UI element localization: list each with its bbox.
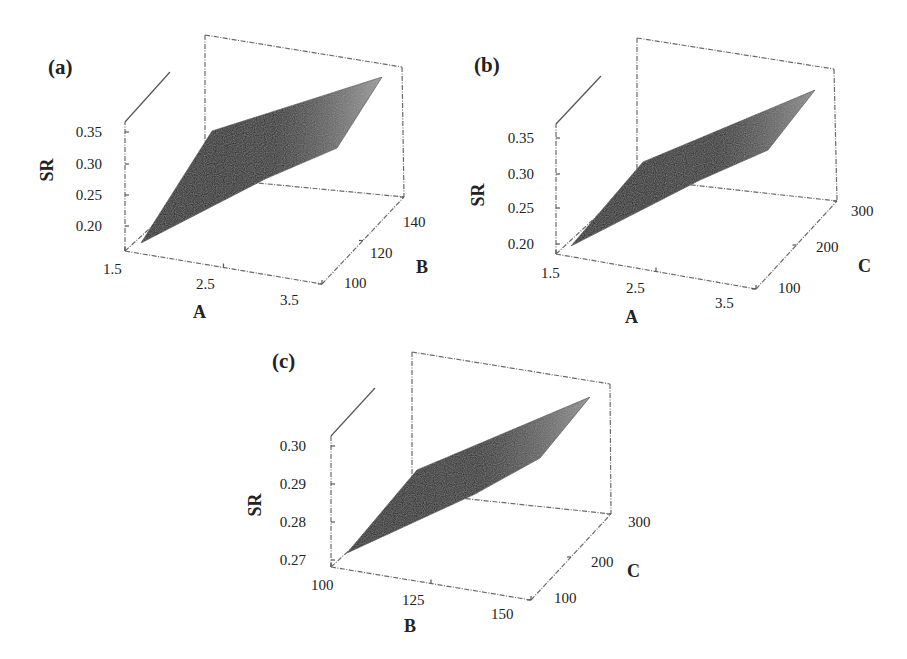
z-tick-label: 0.25 xyxy=(508,200,534,216)
z-axis-label: SR xyxy=(245,492,265,516)
response-surface xyxy=(571,90,815,246)
panel-label: (b) xyxy=(474,53,500,77)
z-axis-depth-line xyxy=(331,388,375,436)
x-tick-label: 125 xyxy=(402,592,425,608)
z-tick-label: 0.28 xyxy=(280,514,306,530)
z-tick-label: 0.25 xyxy=(76,187,102,203)
x-tick-label: 100 xyxy=(311,577,334,593)
x-tick-label: 1.5 xyxy=(103,261,122,277)
y-tick-label: 140 xyxy=(403,214,426,230)
back-wall-right-edge xyxy=(834,69,837,201)
z-tick-label: 0.35 xyxy=(508,130,534,146)
x-axis-label: B xyxy=(404,616,416,636)
y-tick-label: 300 xyxy=(851,203,874,219)
y-tick-label: 100 xyxy=(344,275,367,291)
z-axis-label: SR xyxy=(37,157,57,181)
z-tick-label: 0.30 xyxy=(508,166,534,182)
x-tick-label: 150 xyxy=(491,606,514,622)
x-tick-label: 2.5 xyxy=(196,276,215,292)
z-tick-label: 0.20 xyxy=(76,218,102,234)
back-wall-right-edge xyxy=(402,67,404,197)
z-tick-label: 0.27 xyxy=(280,552,307,568)
y-tick-label: 200 xyxy=(816,239,839,255)
y-tick-label: 100 xyxy=(554,590,577,606)
y-tick-label: 120 xyxy=(370,245,393,261)
y-tick-label: 300 xyxy=(628,514,651,530)
z-tick-label: 0.30 xyxy=(76,156,102,172)
z-axis-label: SR xyxy=(468,182,488,206)
y-tick-label: 100 xyxy=(778,280,801,296)
back-wall-top-edge xyxy=(412,352,610,384)
z-tick-label: 0.29 xyxy=(280,476,306,492)
x-tick-label: 3.5 xyxy=(280,292,299,308)
z-tick-label: 0.35 xyxy=(76,124,102,140)
x-tick-label: 1.5 xyxy=(541,265,560,281)
back-wall-right-edge xyxy=(610,384,611,514)
x-axis-label: A xyxy=(625,307,638,327)
y-axis-label: C xyxy=(627,561,640,581)
z-tick-label: 0.30 xyxy=(280,438,306,454)
figure-canvas: (a)SRAB0.350.300.250.201.52.53.510012014… xyxy=(0,0,907,659)
x-axis-label: A xyxy=(193,302,206,322)
panel-c-surface-plot: (c)SRBC0.300.290.280.2710012515010020030… xyxy=(245,349,651,636)
y-tick-label: 200 xyxy=(591,554,614,570)
back-wall-top-edge xyxy=(637,38,834,69)
panel-label: (a) xyxy=(48,55,73,79)
z-axis-depth-line xyxy=(556,76,601,124)
panel-b-surface-plot: (b)SRAC0.350.300.250.201.52.53.510020030… xyxy=(468,38,874,327)
z-tick-label: 0.20 xyxy=(508,236,534,252)
y-axis-label: B xyxy=(416,257,428,277)
y-axis-label: C xyxy=(858,256,871,276)
back-wall-top-edge xyxy=(205,35,402,67)
panel-label: (c) xyxy=(272,349,295,373)
x-tick-label: 2.5 xyxy=(626,280,645,296)
response-surface xyxy=(347,397,590,553)
z-axis-depth-line xyxy=(125,72,170,122)
response-surface xyxy=(141,77,382,243)
x-tick-label: 3.5 xyxy=(715,295,734,311)
panel-a-surface-plot: (a)SRAB0.350.300.250.201.52.53.510012014… xyxy=(37,35,428,322)
